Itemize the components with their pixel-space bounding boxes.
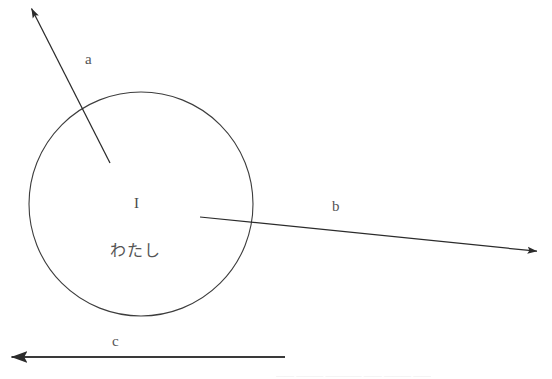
vector-b-label: b: [332, 199, 340, 214]
vector-a-arrow: [32, 9, 111, 164]
cutoff-caption-text: ―― ――― ―――― ―― ――― ――: [276, 370, 431, 379]
circle-label-english: I: [134, 196, 139, 211]
vector-c-label: c: [112, 334, 119, 349]
vector-a-label: a: [85, 52, 92, 67]
vector-diagram-svg: [0, 0, 552, 379]
diagram-canvas: a b c I わたし ―― ――― ―――― ―― ――― ――: [0, 0, 552, 379]
self-circle: [29, 92, 253, 316]
vector-b-arrow: [200, 217, 537, 251]
circle-label-japanese: わたし: [110, 243, 161, 259]
